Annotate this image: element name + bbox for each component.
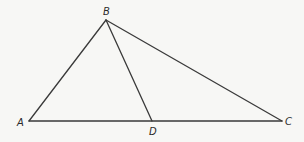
segments-group [29, 20, 282, 121]
vertex-label-c: C [285, 116, 292, 127]
labels-group: A B C D [16, 6, 292, 137]
point-label-d: D [149, 126, 157, 137]
triangle-diagram: A B C D [0, 0, 304, 142]
segment-bd [106, 20, 152, 121]
vertex-label-a: A [16, 117, 24, 128]
vertex-label-b: B [103, 6, 110, 17]
segment-ab [29, 20, 106, 121]
segment-bc [106, 20, 282, 121]
